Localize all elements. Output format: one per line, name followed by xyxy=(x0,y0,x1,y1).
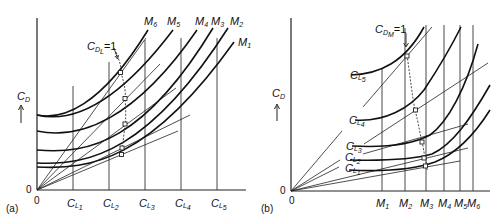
panel-a: CDL=1 M6 M5 M4 M3 M2 M1 CD 0 0 (a) CL1 C… xyxy=(6,15,251,214)
svg-text:CL4: CL4 xyxy=(349,114,365,128)
panel-b: CDM=1 CL5 CL4 CL3 CL2 CL1 CD 0 0 (b) M1 … xyxy=(261,18,490,214)
svg-text:M5: M5 xyxy=(454,197,467,210)
curve-m4 xyxy=(37,30,197,133)
panel-b-tangent-points xyxy=(405,54,428,168)
svg-text:M1: M1 xyxy=(238,36,251,49)
svg-text:CL5: CL5 xyxy=(211,197,227,211)
svg-text:M6: M6 xyxy=(467,197,480,210)
panel-b-origin-x: 0 xyxy=(289,195,295,206)
svg-text:M5: M5 xyxy=(167,15,180,28)
panel-b-tag: (b) xyxy=(261,203,273,214)
panel-b-y-arrow-icon xyxy=(275,104,280,121)
svg-text:M6: M6 xyxy=(144,15,157,28)
svg-text:M2: M2 xyxy=(230,15,243,28)
svg-text:M3: M3 xyxy=(211,15,224,28)
panel-a-x-tick-labels: CL1 CL2 CL3 CL4 CL5 xyxy=(67,197,227,211)
svg-text:M1: M1 xyxy=(376,197,389,210)
panel-b-x-tick-labels: M1 M2 M3 M4 M5 M6 xyxy=(376,197,480,210)
panel-b-tangent-rays xyxy=(291,27,488,191)
curve-cl4 xyxy=(355,27,461,120)
svg-text:CL4: CL4 xyxy=(175,197,191,211)
panel-b-origin-y: 0 xyxy=(280,185,286,196)
svg-text:CL2: CL2 xyxy=(103,197,119,211)
panel-b-annotation-arrow xyxy=(404,33,409,47)
svg-text:CL3: CL3 xyxy=(139,197,155,211)
svg-text:CL5: CL5 xyxy=(350,69,366,83)
svg-text:M2: M2 xyxy=(399,197,412,210)
svg-text:M3: M3 xyxy=(420,197,433,210)
svg-text:CL1: CL1 xyxy=(67,197,83,211)
panel-a-cdl-locus xyxy=(116,52,126,155)
panel-b-annotation: CDM=1 xyxy=(375,23,406,38)
panel-a-y-arrow-icon xyxy=(19,105,24,123)
panel-a-curve-labels: M6 M5 M4 M3 M2 M1 xyxy=(144,15,251,49)
panel-a-annotation: CDL=1 xyxy=(87,40,116,55)
panel-a-tag: (a) xyxy=(6,203,18,214)
svg-text:M4: M4 xyxy=(195,15,208,28)
panel-a-y-label: CD xyxy=(17,90,30,103)
panel-b-cdm-locus xyxy=(407,55,427,170)
panel-a-origin-y: 0 xyxy=(26,184,32,195)
panel-a-origin-x: 0 xyxy=(34,195,40,206)
drag-polar-diagram: CDL=1 M6 M5 M4 M3 M2 M1 CD 0 0 (a) CL1 C… xyxy=(0,0,501,223)
curve-cl2 xyxy=(350,85,490,160)
svg-text:M4: M4 xyxy=(438,197,451,210)
panel-b-y-label: CD xyxy=(272,87,285,100)
